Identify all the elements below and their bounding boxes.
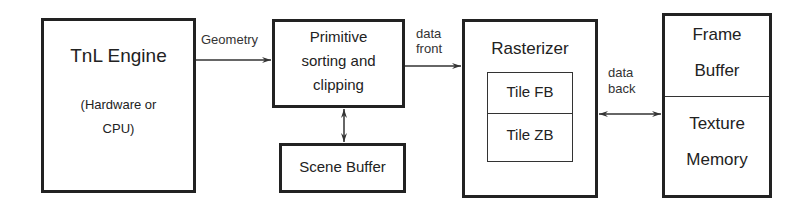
connector-arrows: [0, 0, 808, 207]
